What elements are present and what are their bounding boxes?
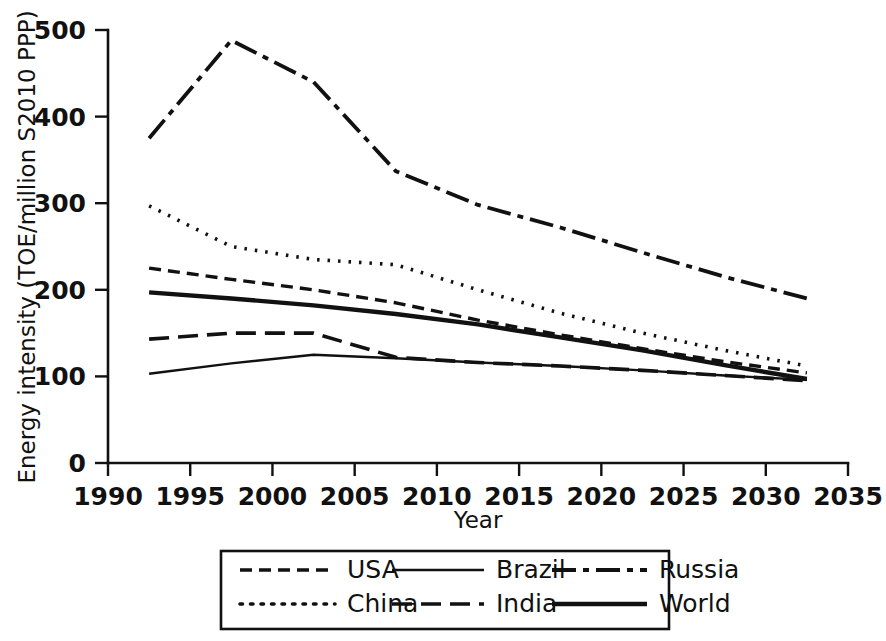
series-lines [149,40,807,380]
legend-entry-china[interactable]: China [240,589,418,618]
x-tick-label: 2000 [238,482,308,511]
legend-label-world: World [659,589,731,618]
y-tick-label: 100 [34,362,86,391]
y-tick-label: 0 [69,449,86,478]
legend-entries: USAChinaBrazilIndiaRussiaWorld [240,555,739,618]
x-tick-label: 2025 [649,482,719,511]
x-axis-title: Year [453,507,503,533]
legend-entry-usa[interactable]: USA [240,555,399,584]
series-line-world [149,292,807,379]
x-tick-label: 1995 [155,482,225,511]
y-axis-tick-labels: 0100200300400500 [34,16,86,478]
legend-label-russia: Russia [659,555,739,584]
legend-entry-world[interactable]: World [552,589,731,618]
x-tick-label: 1990 [73,482,143,511]
legend-entry-brazil[interactable]: Brazil [392,555,566,584]
legend-box [221,551,669,629]
legend-label-usa: USA [347,555,399,584]
y-tick-label: 400 [34,103,86,132]
series-line-russia [149,40,807,298]
series-line-china [149,206,807,366]
y-axis-title: Energy intensity (TOE/million S2010 PPP) [14,10,40,483]
y-tick-label: 300 [34,189,86,218]
chart-canvas: 0100200300400500 19901995200020052010201… [0,0,886,641]
x-tick-label: 2005 [320,482,390,511]
x-axis-ticks [108,463,848,476]
legend-label-india: India [496,589,557,618]
x-tick-label: 2035 [813,482,883,511]
x-tick-label: 2030 [731,482,801,511]
y-axis-ticks [95,30,108,463]
series-line-india [149,333,807,381]
y-tick-label: 200 [34,276,86,305]
series-line-usa [149,268,807,373]
x-tick-label: 2020 [567,482,637,511]
energy-intensity-chart: 0100200300400500 19901995200020052010201… [0,0,886,641]
legend-entry-russia[interactable]: Russia [552,555,739,584]
y-tick-label: 500 [34,16,86,45]
